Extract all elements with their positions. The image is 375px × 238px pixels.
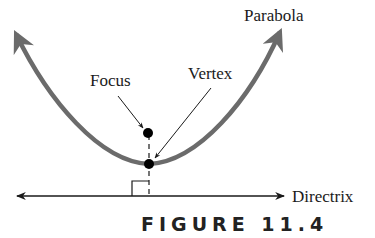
parabola-diagram: Parabola Focus Vertex Directrix FIGURE 1…: [0, 0, 375, 238]
vertex-label: Vertex: [188, 64, 233, 83]
focus-pointer-arrow: [118, 96, 143, 128]
figure-caption: FIGURE 11.4: [141, 213, 328, 235]
directrix-label: Directrix: [292, 187, 354, 206]
focus-point: [143, 128, 153, 138]
parabola-curve: [16, 32, 280, 164]
vertex-pointer-arrow: [155, 88, 211, 158]
vertex-point: [144, 159, 154, 169]
parabola-label: Parabola: [244, 6, 304, 25]
focus-label: Focus: [90, 71, 131, 90]
right-angle-marker: [132, 181, 149, 196]
